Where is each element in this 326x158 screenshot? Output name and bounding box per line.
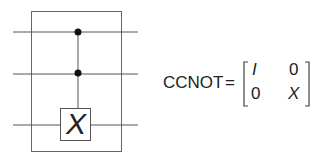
equation-lhs: CCNOT — [163, 73, 223, 93]
control-dot-1 — [75, 29, 82, 36]
matrix-cell-1-1: X — [288, 84, 299, 104]
matrix-cell-0-0: I — [252, 60, 257, 80]
control-dot-2 — [75, 70, 82, 77]
equals-sign: = — [225, 73, 235, 93]
left-bracket — [244, 62, 248, 106]
matrix-cell-1-0: 0 — [251, 84, 260, 104]
matrix-cell-0-1: 0 — [289, 60, 298, 80]
x-gate-label: X — [64, 108, 88, 140]
right-bracket — [305, 62, 309, 106]
